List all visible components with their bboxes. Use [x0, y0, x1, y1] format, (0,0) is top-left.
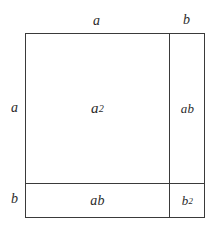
region-ab-right-text: ab — [181, 101, 195, 117]
outer-square: a2 ab ab b2 — [25, 33, 205, 218]
region-ab-right: ab — [169, 34, 206, 183]
binomial-square-diagram: a b a b a2 ab ab b2 — [0, 0, 215, 229]
edge-label-top-b: b — [168, 10, 205, 30]
region-b-squared: b2 — [169, 183, 206, 219]
region-b-squared-base: b — [182, 193, 189, 209]
region-ab-bottom: ab — [26, 183, 169, 219]
edge-label-left-b-text: b — [11, 191, 18, 207]
edge-label-top-a-text: a — [93, 13, 100, 29]
region-a-squared: a2 — [26, 34, 169, 183]
edge-label-left-a: a — [6, 98, 23, 118]
region-a-squared-base: a — [91, 100, 99, 117]
region-ab-bottom-text: ab — [90, 193, 105, 209]
edge-label-top-b-text: b — [183, 12, 190, 28]
edge-label-left-b: b — [6, 189, 23, 209]
edge-label-top-a: a — [25, 12, 168, 30]
edge-label-left-a-text: a — [11, 100, 18, 116]
